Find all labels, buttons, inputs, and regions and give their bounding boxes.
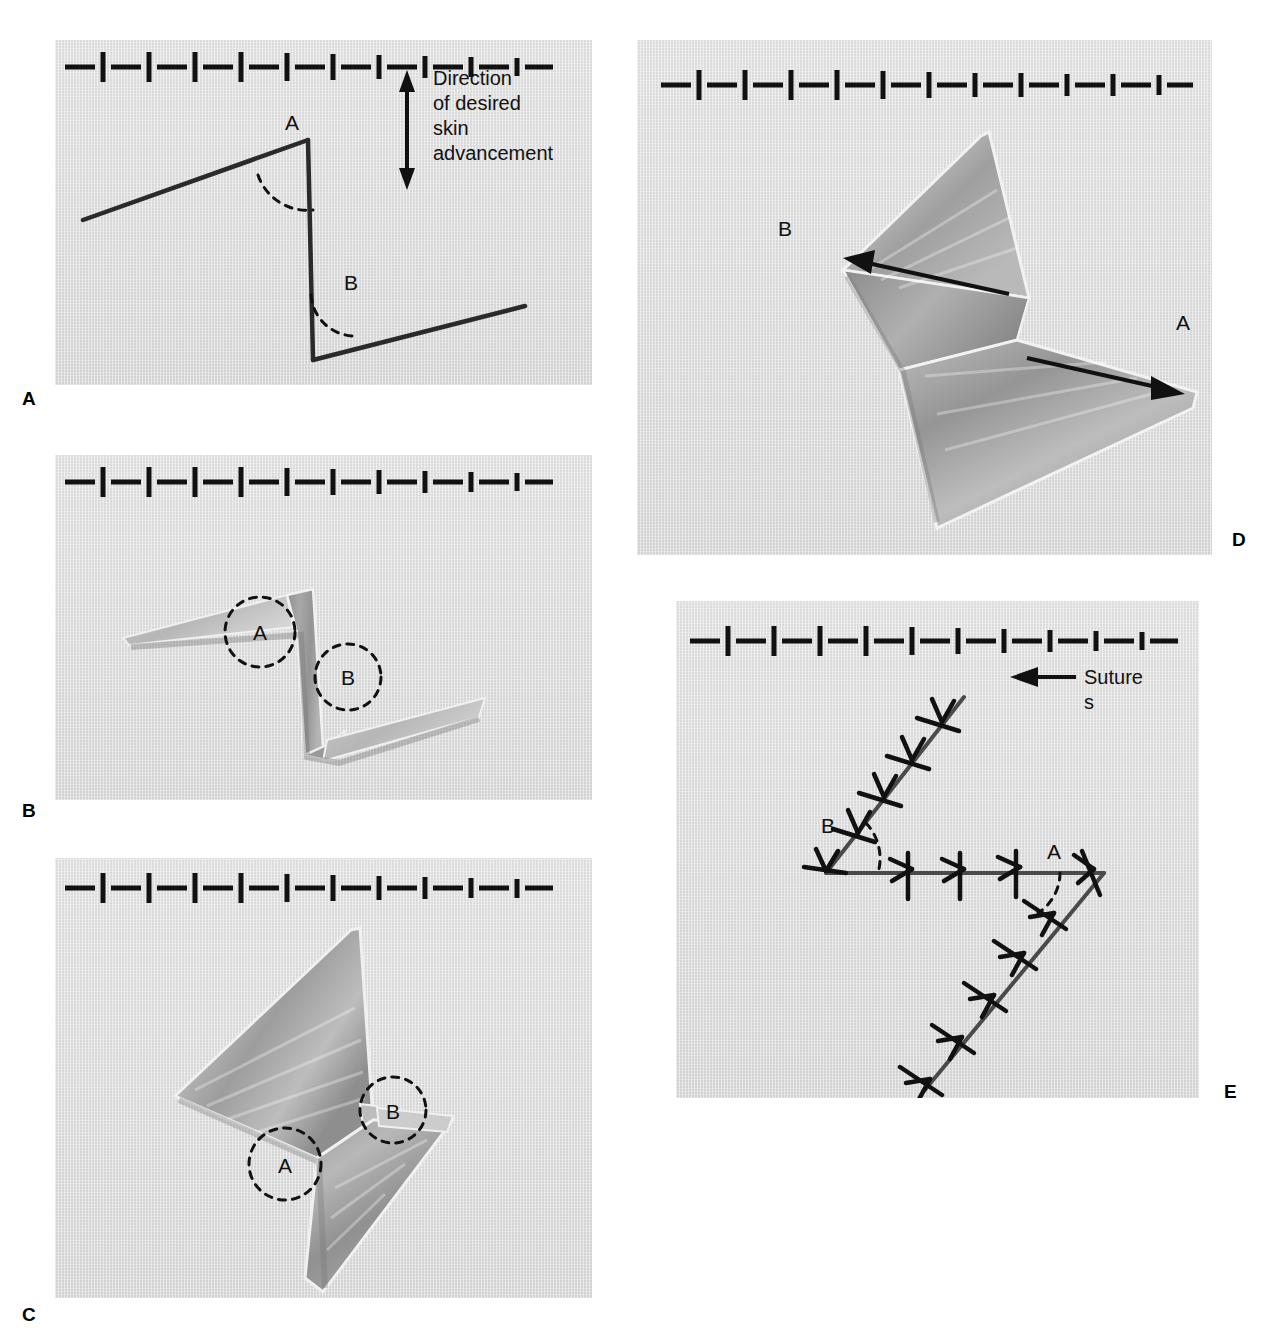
angle-label-b: B — [344, 271, 358, 294]
panel-letter-b: B — [22, 801, 36, 820]
direction-arrow-icon — [399, 70, 415, 190]
angle-label-b: B — [821, 814, 835, 837]
flap-label-b: B — [778, 217, 792, 240]
angle-label-a: A — [278, 1154, 292, 1177]
elevated-flaps — [123, 589, 485, 763]
transposed-flap-pair — [843, 132, 1197, 528]
panel-e: Suture s — [676, 601, 1199, 1098]
panel-letter-a: A — [22, 389, 36, 408]
angle-label-a: A — [285, 111, 299, 134]
panel-b: A B — [55, 455, 592, 800]
suture-label-line-2: s — [1084, 691, 1094, 713]
angle-label-b: B — [386, 1100, 400, 1123]
suture-stitch — [890, 853, 912, 899]
suture-stitch — [932, 1025, 974, 1059]
panel-e-graphics: Suture s — [676, 601, 1199, 1098]
angle-arc-a — [1038, 873, 1060, 913]
suture-label-line-1: Suture — [1084, 666, 1143, 688]
flap-b-lower — [323, 698, 485, 761]
panel-letter-e: E — [1224, 1082, 1237, 1101]
suture-stitch — [887, 737, 929, 769]
z-plasty-incision-lines — [83, 140, 525, 360]
suture-group-lower — [900, 901, 1066, 1098]
suture-leader-arrow — [1010, 667, 1076, 687]
angle-label-a: A — [253, 621, 267, 644]
centimeter-ruler — [65, 467, 553, 497]
suture-stitch — [917, 699, 959, 731]
flap-label-a: A — [1176, 311, 1190, 334]
suture-stitch — [900, 1067, 942, 1098]
angle-arc-a — [258, 175, 313, 210]
angle-label-b: B — [341, 666, 355, 689]
panel-letter-d: D — [1232, 530, 1246, 549]
panel-a-graphics: A B Direction of desired skin advancemen… — [55, 40, 592, 385]
centimeter-ruler — [690, 626, 1178, 656]
direction-note-line-2: of desired — [433, 92, 521, 114]
suture-group-upper — [804, 699, 959, 873]
panel-letter-c: C — [22, 1305, 36, 1324]
centimeter-ruler — [65, 873, 553, 903]
panel-d-graphics: B A — [637, 40, 1212, 555]
angle-label-a: A — [1047, 840, 1061, 863]
panel-c-graphics: A B — [55, 858, 592, 1298]
suture-stitch — [859, 774, 901, 806]
centimeter-ruler — [661, 70, 1193, 100]
panel-a: A B Direction of desired skin advancemen… — [55, 40, 592, 385]
flap-upper-triangle — [175, 928, 373, 1158]
panel-d: B A — [637, 40, 1212, 555]
closed-incision-lines — [826, 697, 1104, 1091]
direction-note-line-3: skin — [433, 117, 469, 139]
panel-c: A B — [55, 858, 592, 1298]
direction-note-line-4: advancement — [433, 142, 554, 164]
suture-stitch — [1024, 901, 1066, 935]
transposed-flaps — [175, 928, 453, 1292]
suture-stitch — [942, 853, 964, 899]
suture-stitch — [994, 941, 1036, 975]
angle-arc-b — [311, 295, 355, 336]
angle-arc-b — [866, 823, 880, 873]
flap-a-shape — [899, 340, 1197, 528]
direction-note-line-1: Direction — [433, 67, 512, 89]
panel-b-graphics: A B — [55, 455, 592, 800]
